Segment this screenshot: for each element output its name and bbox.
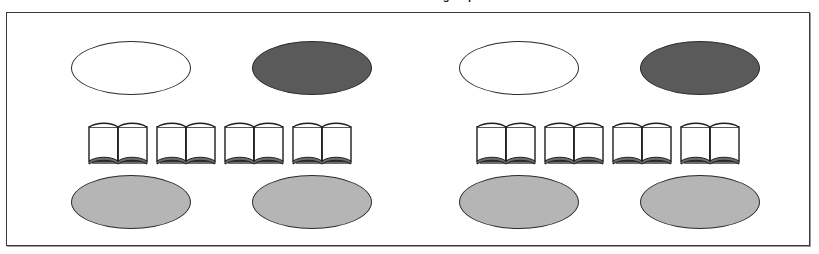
page-title: Phase three: home groups (0, 0, 819, 2)
home-group-right (447, 29, 777, 233)
ellipse-bottom-left (71, 175, 191, 229)
ellipse-bottom-right (252, 175, 372, 229)
open-book-icon (155, 121, 219, 167)
ellipse-bottom-right (640, 175, 760, 229)
ellipse-top-left (459, 41, 579, 95)
open-book-icon (291, 121, 355, 167)
open-book-icon (223, 121, 287, 167)
open-book-icon (679, 121, 743, 167)
ellipse-top-right (252, 41, 372, 95)
book-row (87, 121, 365, 169)
open-book-icon (475, 121, 539, 167)
ellipse-bottom-left (459, 175, 579, 229)
open-book-icon (543, 121, 607, 167)
open-book-icon (87, 121, 151, 167)
open-book-icon (611, 121, 675, 167)
book-row (475, 121, 753, 169)
ellipse-top-left (71, 41, 191, 95)
diagram-frame (6, 12, 810, 246)
home-group-left (59, 29, 389, 233)
ellipse-top-right (640, 41, 760, 95)
